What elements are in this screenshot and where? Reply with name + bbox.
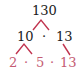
dot-separator: · xyxy=(42,30,46,43)
factor-10: 10 xyxy=(17,30,34,43)
prime-5: 5 xyxy=(36,56,44,69)
prime-2: 2 xyxy=(9,56,17,69)
factor-13: 13 xyxy=(56,30,73,43)
dot-separator: · xyxy=(24,56,28,69)
branch-130 xyxy=(33,20,49,30)
branch-10 xyxy=(16,44,32,54)
dot-separator: · xyxy=(50,56,54,69)
branch-13 xyxy=(63,44,70,55)
root-number: 130 xyxy=(32,4,57,17)
prime-13: 13 xyxy=(60,56,77,69)
